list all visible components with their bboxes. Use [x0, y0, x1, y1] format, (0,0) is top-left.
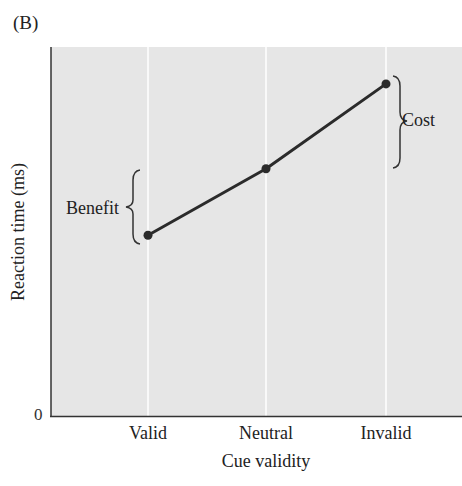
x-tick-invalid: Invalid [361, 423, 412, 444]
chart-canvas [0, 0, 462, 486]
data-point-invalid [382, 79, 391, 88]
y-axis-title: Reaction time (ms) [8, 163, 29, 301]
benefit-annotation: Benefit [66, 198, 119, 219]
data-point-valid [144, 231, 153, 240]
x-tick-neutral: Neutral [239, 423, 293, 444]
y-tick-zero: 0 [34, 405, 43, 425]
x-axis-title: Cue validity [222, 451, 311, 472]
data-point-neutral [262, 164, 271, 173]
panel-label: (B) [13, 12, 38, 34]
x-tick-valid: Valid [129, 423, 167, 444]
cost-annotation: Cost [402, 110, 435, 131]
